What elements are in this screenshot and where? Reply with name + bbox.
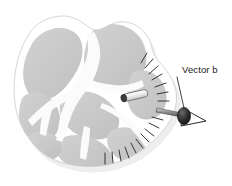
vector-b-label: Vector b xyxy=(182,64,218,75)
figure-container: Vector b xyxy=(0,0,232,186)
cerebellum-vector-diagram: Vector b xyxy=(0,0,232,186)
